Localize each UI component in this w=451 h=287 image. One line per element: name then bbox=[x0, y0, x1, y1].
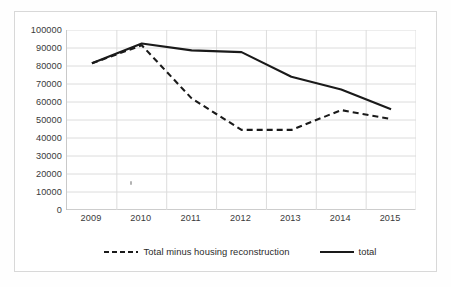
y-axis-tick-label: 20000 bbox=[36, 169, 62, 179]
x-axis-tick-label: 2014 bbox=[330, 213, 351, 223]
y-axis-tick-labels: 1000009000080000700006000050000400003000… bbox=[22, 24, 62, 214]
legend-label: Total minus housing reconstruction bbox=[143, 246, 289, 257]
legend-item-total-minus-housing-reconstruction[interactable]: Total minus housing reconstruction bbox=[104, 246, 289, 257]
y-axis-tick-label: 80000 bbox=[36, 61, 62, 71]
series-line-total bbox=[92, 44, 391, 110]
x-axis-tick-label: 2013 bbox=[280, 213, 301, 223]
legend-item-total[interactable]: total bbox=[320, 246, 377, 257]
y-axis-tick-label: 60000 bbox=[36, 97, 62, 107]
scan-artifact-speck bbox=[130, 181, 132, 185]
line-chart: 1000009000080000700006000050000400003000… bbox=[0, 0, 451, 287]
chart-screenshot: 1000009000080000700006000050000400003000… bbox=[0, 0, 451, 287]
x-axis-tick-label: 2011 bbox=[181, 213, 201, 223]
legend-label: total bbox=[359, 246, 377, 257]
y-axis-tick-label: 40000 bbox=[36, 133, 62, 143]
legend-solid-line-icon bbox=[320, 250, 354, 253]
chart-legend: Total minus housing reconstruction total bbox=[66, 243, 415, 259]
y-axis-tick-label: 30000 bbox=[36, 151, 62, 161]
plot-area bbox=[66, 30, 415, 210]
x-axis-tick-label: 2010 bbox=[130, 213, 151, 223]
x-axis-tick-labels: 2009201020112012201320142015 bbox=[66, 213, 415, 229]
y-axis-tick-label: 50000 bbox=[36, 115, 62, 125]
legend-dashed-line-icon bbox=[104, 250, 138, 253]
x-axis-tick-label: 2015 bbox=[380, 213, 401, 223]
y-axis-tick-label: 0 bbox=[57, 205, 62, 215]
y-axis-tick-label: 90000 bbox=[36, 43, 62, 53]
y-axis-tick-label: 100000 bbox=[31, 25, 62, 35]
x-axis-tick-label: 2009 bbox=[81, 213, 102, 223]
gridlines-horizontal bbox=[67, 30, 416, 210]
y-axis-tick-label: 70000 bbox=[36, 79, 62, 89]
y-axis-tick-label: 10000 bbox=[36, 187, 62, 197]
plot-svg bbox=[67, 30, 416, 210]
series-line-total-minus-housing-reconstruction bbox=[92, 45, 391, 130]
x-axis-tick-label: 2012 bbox=[230, 213, 251, 223]
